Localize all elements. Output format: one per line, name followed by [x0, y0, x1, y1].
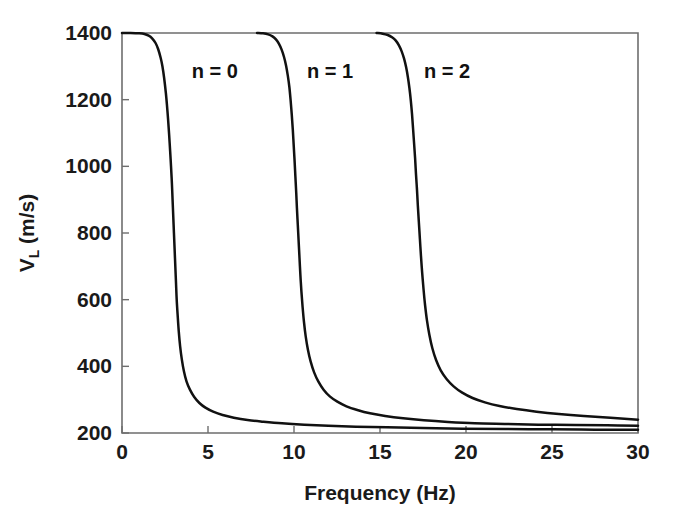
curve-annotations: n = 0n = 1n = 2	[192, 60, 470, 82]
x-axis-title: Frequency (Hz)	[304, 481, 456, 504]
x-tick-label: 20	[454, 440, 477, 463]
y-tick-label: 1400	[65, 21, 112, 44]
y-tick-label: 400	[77, 354, 112, 377]
curve-label: n = 0	[192, 60, 238, 82]
x-tick-label: 0	[116, 440, 128, 463]
x-tick-label: 5	[202, 440, 214, 463]
dispersion-curve-chart: 200400600800100012001400 051015202530 n …	[0, 0, 678, 521]
curve-label: n = 2	[424, 60, 470, 82]
x-tick-label: 15	[368, 440, 392, 463]
x-tick-label: 30	[626, 440, 649, 463]
figure-container: 200400600800100012001400 051015202530 n …	[0, 0, 678, 521]
y-tick-label: 1200	[65, 88, 112, 111]
y-tick-label: 800	[77, 221, 112, 244]
y-axis-title-text: VL (m/s)	[15, 194, 42, 273]
curve-label: n = 1	[307, 60, 353, 82]
y-tick-label: 200	[77, 421, 112, 444]
y-tick-label: 1000	[65, 154, 112, 177]
x-tick-label: 10	[282, 440, 305, 463]
y-axis-title: VL (m/s)	[15, 194, 42, 273]
y-tick-label: 600	[77, 288, 112, 311]
x-tick-label: 25	[540, 440, 564, 463]
